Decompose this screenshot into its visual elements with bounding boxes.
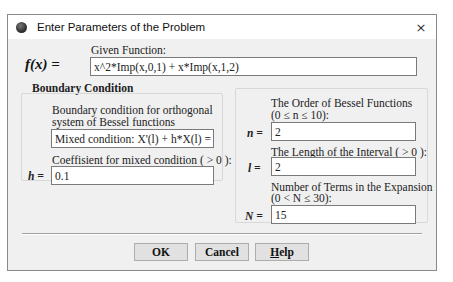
- boundary-condition-select[interactable]: Mixed condition: X'(l) + h*X(l) = 0 ⌄: [51, 129, 214, 148]
- close-icon: ×: [416, 20, 427, 35]
- terms-input[interactable]: 15: [271, 205, 416, 224]
- n-symbol: n =: [247, 127, 263, 139]
- length-input[interactable]: 2: [271, 157, 416, 176]
- app-icon: [16, 22, 27, 33]
- order-label-line1: The Order of Bessel Functions: [271, 97, 412, 109]
- help-button[interactable]: Help: [255, 243, 309, 261]
- given-function-label: Given Function:: [91, 44, 166, 56]
- cancel-button[interactable]: Cancel: [195, 243, 249, 261]
- condition-label-line2: system of Bessel functions: [52, 116, 175, 128]
- dialog-title: Enter Parameters of the Problem: [37, 21, 205, 33]
- coefficient-label: Coeffisient for mixed condition ( > 0 ):: [52, 154, 232, 166]
- close-button[interactable]: ×: [412, 18, 430, 36]
- coefficient-input[interactable]: 0.1: [51, 166, 214, 185]
- separator: [22, 233, 422, 235]
- h-symbol: h =: [28, 170, 44, 182]
- condition-label-line1: Boundary condition for orthogonal: [52, 104, 213, 116]
- title-bar[interactable]: Enter Parameters of the Problem ×: [8, 15, 436, 39]
- l-symbol: l =: [248, 162, 261, 174]
- order-input[interactable]: 2: [271, 122, 416, 141]
- help-mnemonic: H: [270, 246, 279, 258]
- N-symbol: N =: [245, 210, 263, 222]
- order-label-line2: (0 ≤ n ≤ 10):: [271, 109, 329, 121]
- help-label-rest: elp: [279, 246, 294, 258]
- function-symbol: f(x) =: [25, 56, 60, 73]
- selected-condition: Mixed condition: X'(l) + h*X(l) = 0: [55, 132, 214, 146]
- function-input[interactable]: x^2*Imp(x,0,1) + x*Imp(x,1,2): [90, 57, 417, 76]
- terms-label-line2: (0 < N ≤ 30):: [271, 192, 332, 204]
- ok-button[interactable]: OK: [134, 243, 188, 261]
- parameters-dialog: Enter Parameters of the Problem × Given …: [7, 14, 437, 271]
